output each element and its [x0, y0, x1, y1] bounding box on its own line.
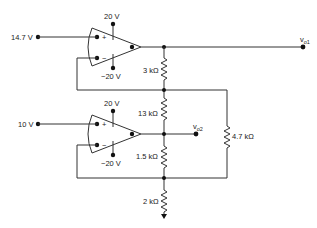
opamp-2-supply-pos: 20 V: [104, 99, 119, 108]
opamp-1: + − 20 V −20 V: [88, 12, 141, 81]
resistor-3k: [161, 58, 167, 80]
opamp-1-plus: +: [102, 33, 107, 42]
vo1-label: vo1: [300, 35, 310, 45]
ground-arrow-icon: [161, 214, 167, 219]
opamp-2-plus: +: [102, 120, 107, 129]
opamp-1-supply-pos: 20 V: [104, 12, 119, 21]
opamp-2-supply-neg: −20 V: [101, 159, 121, 168]
resistor-13k: [161, 98, 167, 120]
resistor-3k-label: 3 kΩ: [143, 66, 159, 75]
opamp-2-minus: −: [102, 141, 107, 150]
opamp-1-minus: −: [102, 54, 107, 63]
resistor-1.5k-label: 1.5 kΩ: [136, 152, 158, 161]
resistor-4.7k-label: 4.7 kΩ: [232, 132, 254, 141]
input-2-label: 10 V: [18, 120, 33, 129]
vo2-terminal: [194, 132, 199, 137]
vo1-terminal: [301, 45, 306, 50]
resistor-1.5k: [161, 146, 167, 168]
circuit-diagram: + − 20 V −20 V 14.7 V vo1 3 kΩ 13 kΩ 4.7…: [0, 0, 317, 228]
resistor-2k: [161, 190, 167, 212]
opamp-1-supply-neg: −20 V: [101, 72, 121, 81]
vo2-label: vo2: [193, 122, 203, 132]
input-1-label: 14.7 V: [11, 33, 33, 42]
resistor-4.7k: [224, 126, 230, 148]
resistor-13k-label: 13 kΩ: [138, 109, 158, 118]
opamp-2: + − 20 V −20 V: [88, 99, 141, 168]
resistor-2k-label: 2 kΩ: [143, 197, 159, 206]
